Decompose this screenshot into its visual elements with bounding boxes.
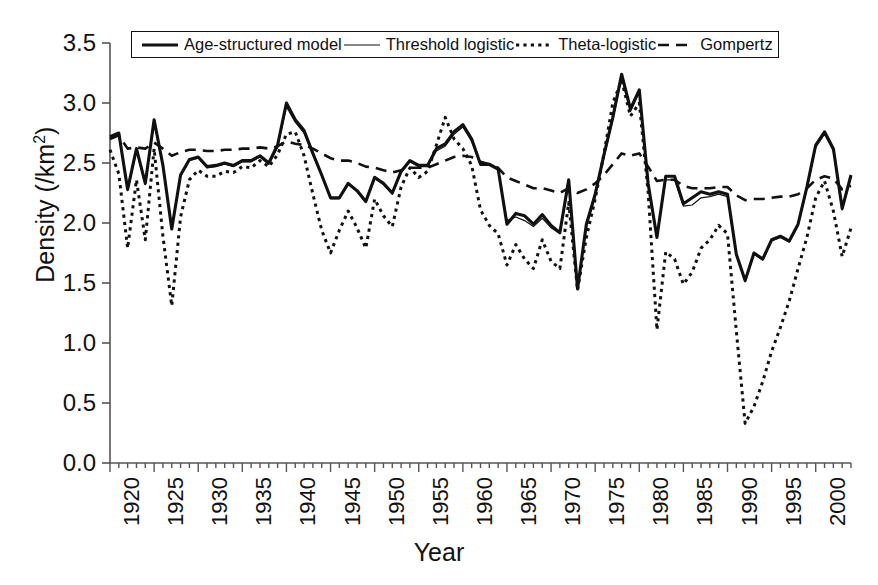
x-axis-tick-label: 1940 <box>295 477 321 526</box>
series-line-solid-thick <box>110 74 851 289</box>
legend-line-sample-dotted <box>514 39 554 51</box>
x-axis-tick-label: 1985 <box>692 477 718 526</box>
x-axis-tick-label: 1950 <box>384 477 410 526</box>
x-axis-tick-label: 1930 <box>207 477 233 526</box>
y-axis-tick-label: 0.0 <box>32 449 96 477</box>
legend-label: Threshold logistic <box>386 36 514 53</box>
legend-entry: Gompertz <box>656 36 772 53</box>
legend-line-sample-solid-thin <box>342 39 382 51</box>
chart-legend: Age-structured modelThreshold logisticTh… <box>131 31 779 58</box>
y-axis-tick-label: 1.5 <box>32 269 96 297</box>
legend-label: Age-structured model <box>184 36 342 53</box>
legend-entry: Threshold logistic <box>342 36 514 53</box>
legend-line-sample-dashed <box>656 39 696 51</box>
chart-figure: Density (/km2) Year 0.00.51.01.52.02.53.… <box>0 0 878 585</box>
x-axis-tick-label: 1960 <box>472 477 498 526</box>
y-axis-tick-label: 0.5 <box>32 389 96 417</box>
legend-entry: Age-structured model <box>140 36 342 53</box>
y-axis-tick-label: 2.0 <box>32 209 96 237</box>
series-line-dotted <box>110 80 851 423</box>
x-axis-tick-label: 1970 <box>560 477 586 526</box>
series-line-solid-thin <box>110 78 851 288</box>
legend-label: Gompertz <box>700 36 772 53</box>
y-axis-tick-label: 3.0 <box>32 89 96 117</box>
legend-line-sample-solid-thick <box>140 39 180 51</box>
x-axis-tick-label: 1965 <box>516 477 542 526</box>
x-axis-tick-label: 2000 <box>825 477 851 526</box>
x-axis-title: Year <box>0 538 878 567</box>
y-axis-tick-label: 2.5 <box>32 149 96 177</box>
series-line-dashed <box>110 135 851 200</box>
x-axis-tick-label: 1995 <box>781 477 807 526</box>
x-axis-tick-label: 1955 <box>428 477 454 526</box>
y-axis-tick-label: 3.5 <box>32 29 96 57</box>
x-axis-tick-label: 1990 <box>737 477 763 526</box>
x-axis-tick-label: 1935 <box>251 477 277 526</box>
y-axis-tick-label: 1.0 <box>32 329 96 357</box>
x-axis-tick-label: 1945 <box>340 477 366 526</box>
legend-entry: Theta-logistic <box>514 36 656 53</box>
x-axis-tick-label: 1975 <box>604 477 630 526</box>
legend-label: Theta-logistic <box>558 36 656 53</box>
x-axis-tick-label: 1980 <box>648 477 674 526</box>
x-axis-tick-label: 1920 <box>119 477 145 526</box>
x-axis-tick-label: 1925 <box>163 477 189 526</box>
axis-spines <box>110 43 851 463</box>
